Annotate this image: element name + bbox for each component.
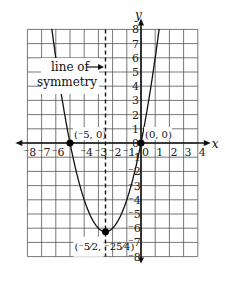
svg-text:⁻3: ⁻3 [94, 146, 107, 159]
svg-text:⁻6: ⁻6 [52, 146, 65, 159]
svg-text:0: 0 [142, 146, 149, 159]
svg-text:line of: line of [51, 60, 91, 74]
svg-text:⁻8: ⁻8 [23, 146, 36, 159]
parabola-graph: xy ⁻8⁻7⁻6⁻4⁻3⁻2⁻101234876543210⁻1⁻2⁻3⁻4⁻… [0, 0, 225, 282]
svg-text:(0, 0): (0, 0) [145, 129, 172, 140]
svg-text:⁻7: ⁻7 [38, 146, 51, 159]
svg-text:symmetry: symmetry [37, 75, 97, 89]
svg-text:⁻8: ⁻8 [128, 251, 141, 264]
svg-text:⁻6: ⁻6 [128, 222, 141, 235]
svg-text:(⁻5⁄2, ⁻25⁄4): (⁻5⁄2, ⁻25⁄4) [75, 241, 135, 252]
svg-text:4: 4 [132, 80, 139, 93]
svg-text:1: 1 [156, 146, 163, 159]
svg-text:2: 2 [170, 146, 177, 159]
svg-text:x: x [212, 137, 219, 151]
svg-text:3: 3 [185, 146, 192, 159]
svg-text:5: 5 [132, 66, 139, 79]
svg-text:6: 6 [132, 52, 139, 65]
svg-text:y: y [134, 8, 142, 22]
svg-text:⁻1: ⁻1 [128, 151, 141, 164]
svg-text:2: 2 [132, 109, 139, 122]
svg-text:⁻3: ⁻3 [128, 180, 141, 193]
svg-text:8: 8 [132, 23, 139, 36]
svg-text:4: 4 [199, 146, 206, 159]
svg-text:⁻2: ⁻2 [109, 146, 122, 159]
svg-text:3: 3 [132, 94, 139, 107]
svg-text:1: 1 [132, 123, 139, 136]
svg-text:⁻5: ⁻5 [128, 208, 141, 221]
svg-text:(⁻5, 0): (⁻5, 0) [74, 129, 106, 140]
svg-text:⁻2: ⁻2 [128, 165, 141, 178]
svg-text:⁻4: ⁻4 [80, 146, 93, 159]
svg-text:7: 7 [132, 38, 139, 51]
svg-text:⁻4: ⁻4 [128, 194, 141, 207]
axes: xy [15, 8, 218, 263]
